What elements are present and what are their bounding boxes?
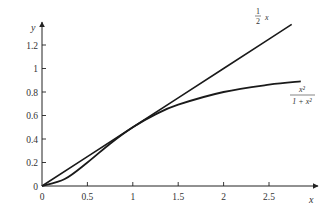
x-tick-label: 0 [40,192,45,202]
x-tick-label: 1.5 [172,192,184,202]
svg-text:1 + x²: 1 + x² [292,97,312,106]
x-axis-title: x [308,194,314,205]
y-tick-label: 0.8 [26,88,38,98]
svg-text:x: x [264,13,269,22]
y-tick-label: 1.2 [26,41,38,51]
svg-text:x²: x² [298,85,306,94]
y-tick-label: 1 [33,64,38,74]
y-tick-label: 0.4 [26,135,38,145]
svg-text:1: 1 [256,7,260,16]
curve-x2-over-1-plus-x2 [42,81,301,186]
x-tick-label: 0.5 [81,192,93,202]
y-ticks: 00.20.40.60.811.2 [26,41,46,192]
function-plot: y x 00.511.522.5 00.20.40.60.811.2 1 2 x… [0,0,332,211]
x-tick-label: 2.5 [263,192,275,202]
label-x2-over-1-plus-x2: x² 1 + x² [290,85,315,106]
x-tick-label: 1 [130,192,135,202]
label-half-x: 1 2 x [255,7,269,26]
y-tick-label: 0 [33,182,38,192]
y-tick-label: 0.6 [26,111,38,121]
y-axis-title: y [30,22,36,33]
y-tick-label: 0.2 [26,158,38,168]
x-ticks: 00.511.522.5 [40,182,276,202]
x-tick-label: 2 [221,192,226,202]
svg-text:2: 2 [256,17,260,26]
line-half-x [42,24,292,186]
